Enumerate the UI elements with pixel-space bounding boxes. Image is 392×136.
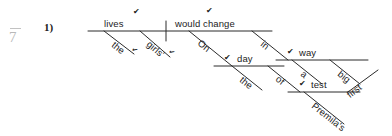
- grade-mark-value: 7: [9, 29, 17, 45]
- word-object-way: way: [299, 48, 316, 58]
- word-subject: lives: [104, 19, 124, 29]
- check-mark-subject: ✔: [133, 8, 140, 16]
- grade-mark: 7: [9, 28, 21, 45]
- word-predicate: would change: [175, 19, 235, 29]
- check-mark-object-test: ✔: [299, 80, 306, 88]
- word-object-test: test: [311, 80, 327, 90]
- check-mark-predicate: ✔: [206, 7, 213, 15]
- sentence-diagram-canvas: 7 1) lives ✔ would change ✔ the ✔ girls'…: [0, 0, 392, 136]
- check-mark-object-way: ✔: [287, 48, 294, 56]
- word-object-day: day: [237, 54, 253, 64]
- item-number: 1): [44, 22, 53, 33]
- slant-prep-in: [252, 31, 288, 60]
- check-mark-object-day: ✔: [224, 54, 231, 62]
